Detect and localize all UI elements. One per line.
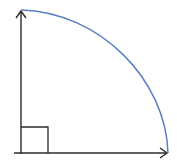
- quarter-circle-diagram: [0, 0, 177, 166]
- right-angle-marker: [21, 127, 48, 153]
- quarter-arc: [21, 10, 168, 153]
